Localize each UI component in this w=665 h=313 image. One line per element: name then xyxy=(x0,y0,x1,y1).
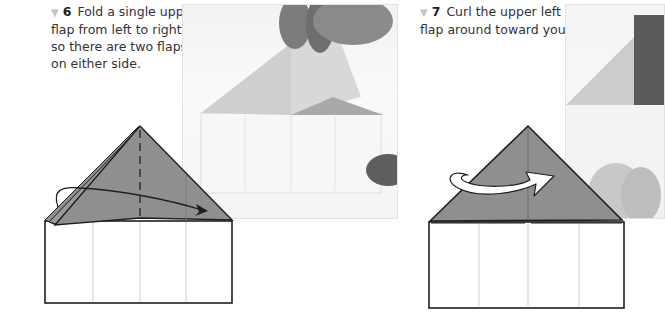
step-7-diagram xyxy=(429,126,624,308)
step-6-diagram xyxy=(45,126,232,303)
